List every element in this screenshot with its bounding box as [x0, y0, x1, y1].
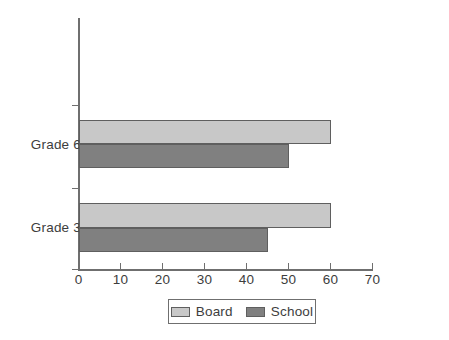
x-axis-tick — [372, 263, 373, 270]
x-axis-line — [78, 269, 373, 271]
legend-entry-school: School — [246, 304, 313, 319]
x-axis-tick — [288, 263, 289, 270]
x-axis-tick-label: 0 — [59, 272, 99, 287]
x-axis-tick-label: 70 — [353, 272, 393, 287]
x-axis-tick-label: 40 — [227, 272, 267, 287]
x-axis-tick-label: 60 — [311, 272, 351, 287]
x-axis-tick-label: 50 — [269, 272, 309, 287]
y-axis-label-grade3: Grade 3 — [31, 220, 81, 235]
x-axis-tick — [330, 263, 331, 270]
legend-label-school: School — [271, 304, 313, 319]
legend-entry-board: Board — [171, 304, 233, 319]
x-axis-tick-label: 10 — [101, 272, 141, 287]
bar-chart: 010203040506070 Grade 6 Grade 3 Board Sc… — [0, 0, 449, 340]
bar-grade3-board — [79, 203, 331, 228]
bar-grade6-board — [79, 120, 331, 144]
y-axis-tick — [72, 188, 79, 189]
bar-grade3-school — [79, 228, 268, 252]
x-axis-tick — [246, 263, 247, 270]
y-axis-label-grade6: Grade 6 — [31, 137, 81, 152]
x-axis-tick-label: 30 — [185, 272, 225, 287]
legend-swatch-school — [246, 307, 265, 317]
x-axis-tick-label: 20 — [143, 272, 183, 287]
y-axis-tick — [72, 105, 79, 106]
x-axis-tick — [120, 263, 121, 270]
bar-grade6-school — [79, 144, 289, 168]
legend-swatch-board — [171, 307, 190, 317]
x-axis-tick — [204, 263, 205, 270]
legend-label-board: Board — [196, 304, 233, 319]
x-axis-tick — [162, 263, 163, 270]
y-axis-tick — [72, 269, 79, 270]
chart-legend: Board School — [168, 299, 316, 324]
